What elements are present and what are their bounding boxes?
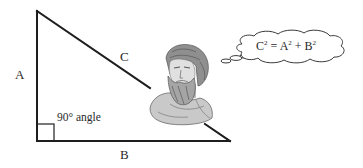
equation-a: A <box>280 39 289 53</box>
hypotenuse-line-lower <box>205 124 230 141</box>
equation-equals: = <box>268 39 280 53</box>
pythagoras-bust-icon <box>150 45 212 125</box>
pythagorean-equation: C2 = A2 + B2 <box>256 40 316 52</box>
right-angle-marker <box>37 124 54 141</box>
side-a-label: A <box>15 68 24 81</box>
equation-c: C <box>256 39 264 53</box>
equation-b-exponent: 2 <box>313 39 317 47</box>
diagram-canvas <box>0 0 363 168</box>
equation-b: B <box>305 39 313 53</box>
pythagorean-diagram: A B C 90° angle C2 = A2 + B2 <box>0 0 363 168</box>
right-angle-label: 90° angle <box>57 112 101 124</box>
hypotenuse-line-upper <box>37 11 150 88</box>
equation-plus: + <box>292 39 305 53</box>
side-c-label: C <box>120 50 129 63</box>
side-b-label: B <box>120 148 129 161</box>
